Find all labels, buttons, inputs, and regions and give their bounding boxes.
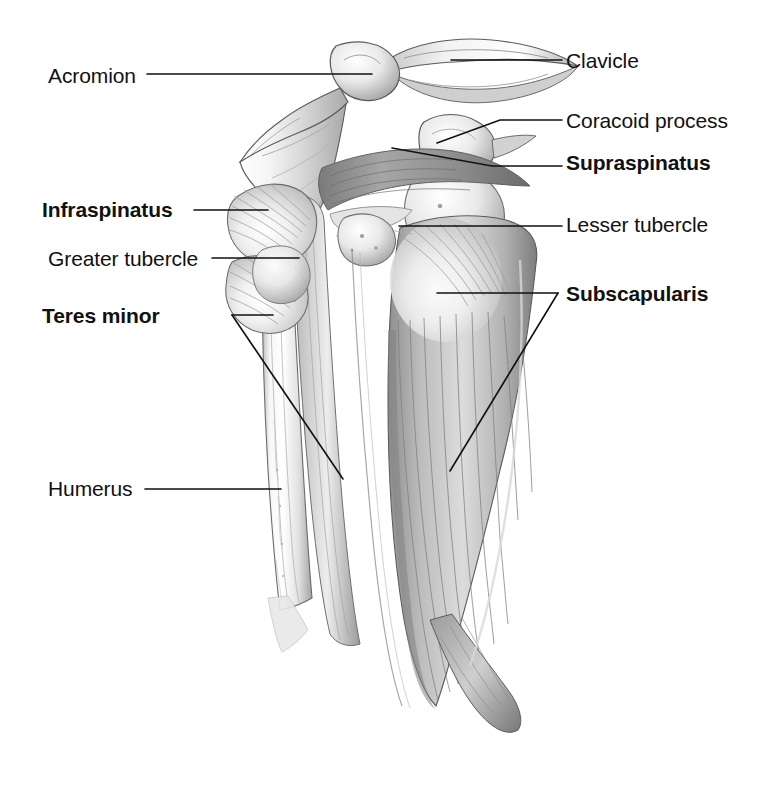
anatomy-figure-page: Acromion Clavicle Coracoid process Supra… [0, 0, 762, 800]
label-teres-minor: Teres minor [42, 305, 160, 326]
label-acromion: Acromion [48, 65, 136, 86]
lesser-tubercle-bone [338, 214, 396, 266]
label-lesser-tubercle: Lesser tubercle [566, 214, 708, 235]
label-clavicle: Clavicle [566, 50, 639, 71]
label-infraspinatus: Infraspinatus [42, 199, 173, 220]
clavicle-bone [388, 39, 578, 103]
label-coracoid-process: Coracoid process [566, 110, 728, 131]
label-greater-tubercle: Greater tubercle [48, 248, 198, 269]
label-humerus: Humerus [48, 478, 133, 499]
illustration-artwork [226, 39, 578, 732]
greater-tubercle-bone [253, 246, 310, 304]
label-supraspinatus: Supraspinatus [566, 152, 711, 173]
label-subscapularis: Subscapularis [566, 283, 708, 304]
